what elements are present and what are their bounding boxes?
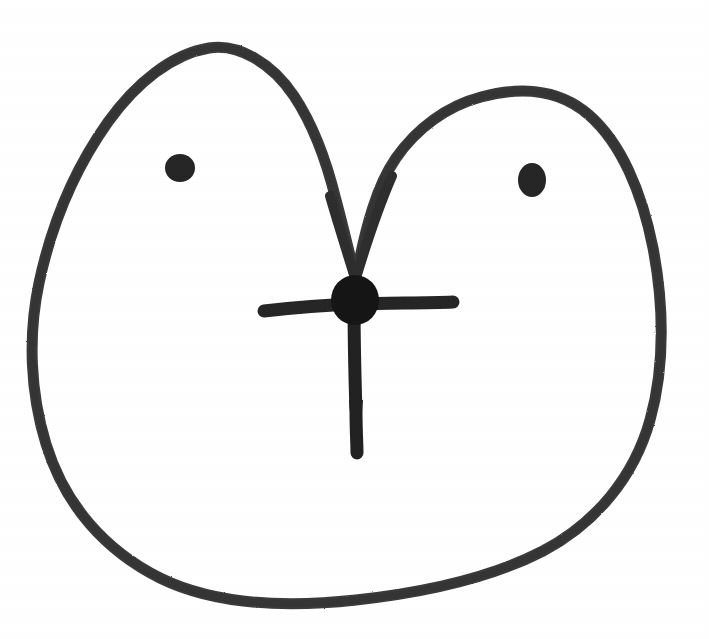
right-eye-blob <box>518 163 546 197</box>
face-doodle-svg <box>0 0 709 639</box>
drawing-canvas <box>0 0 709 639</box>
nose-center-blob <box>331 275 379 325</box>
left-eye-blob <box>165 154 195 182</box>
